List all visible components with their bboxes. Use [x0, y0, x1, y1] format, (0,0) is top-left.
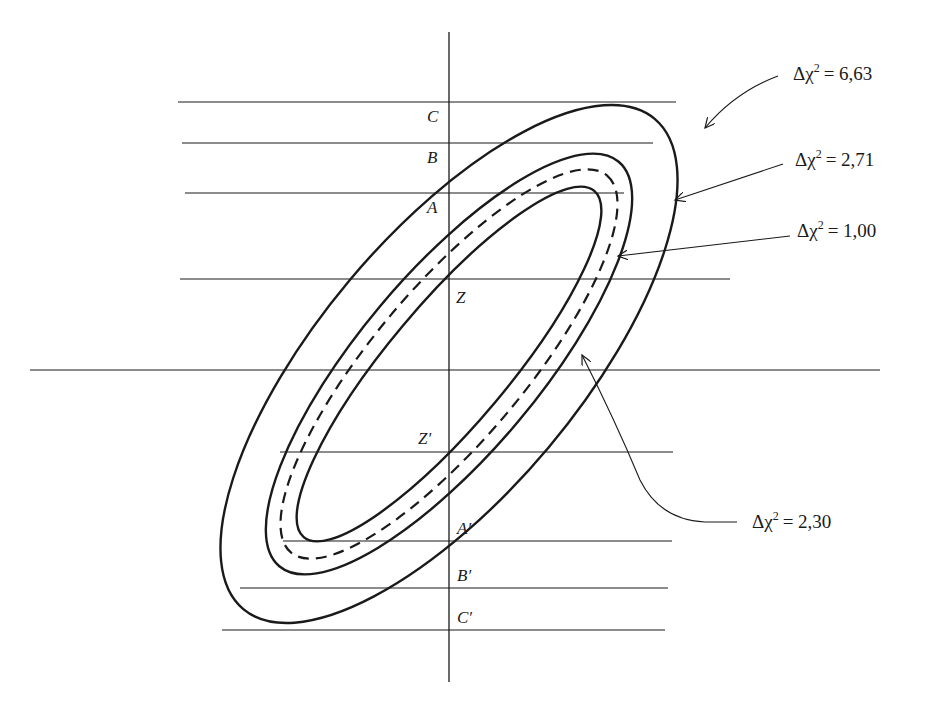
label-A: A	[426, 198, 438, 217]
label-A-prime: A′	[456, 519, 471, 538]
label-C-prime: C′	[457, 608, 472, 627]
annotation-2-71: Δχ2= 2,71	[795, 147, 874, 170]
arrow-2-71	[675, 164, 783, 200]
annotation-2-30: Δχ2= 2,30	[752, 509, 831, 532]
label-B: B	[427, 148, 438, 167]
annotation-6-63: Δχ2= 6,63	[793, 61, 872, 84]
label-B-prime: B′	[457, 566, 471, 585]
label-Z: Z	[456, 288, 466, 307]
label-C: C	[427, 107, 439, 126]
arrow-1-00	[618, 236, 790, 256]
arrow-6-63	[705, 76, 778, 128]
contour-annotations: Δχ2= 6,63 Δχ2= 2,71 Δχ2= 1,00 Δχ2= 2,30	[752, 61, 876, 532]
label-Z-prime: Z′	[418, 429, 431, 448]
confidence-ellipse-diagram: C B A Z Z′ A′ B′ C′ Δχ2= 6,63 Δχ2= 2,71 …	[0, 0, 925, 704]
annotation-1-00: Δχ2= 1,00	[797, 218, 876, 241]
arrow-2-30	[582, 355, 737, 522]
projection-lines	[30, 102, 880, 630]
